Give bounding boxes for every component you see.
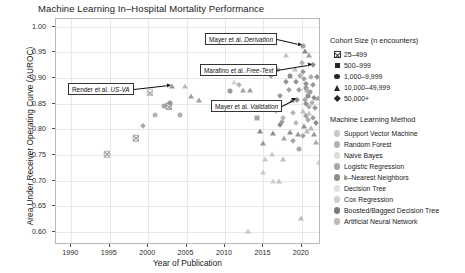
- data-point: [279, 119, 285, 125]
- legend: Cohort Size (n encounters)25–499500–9991…: [330, 36, 462, 227]
- annotation-label-mayer-derivation: Mayer et al. Derivation: [205, 33, 277, 45]
- square-icon: [335, 63, 340, 68]
- annotation-text-roman: Mayer et al.: [209, 36, 244, 43]
- legend-swatch: [330, 207, 344, 214]
- y-axis-tick-label: 0.65: [0, 201, 46, 210]
- data-point: [305, 93, 310, 98]
- gridline-horizontal: [56, 232, 319, 233]
- method-color-icon: [334, 207, 341, 214]
- y-axis-tick-label: 0.90: [0, 73, 46, 82]
- legend-item[interactable]: Logistic Regression: [330, 161, 462, 172]
- method-color-icon: [334, 141, 341, 148]
- data-point: [293, 120, 299, 126]
- y-axis-tick-mark: [52, 205, 55, 206]
- legend-item[interactable]: Support Vector Machine: [330, 128, 462, 139]
- x-axis-tick-mark: [186, 244, 187, 247]
- data-point: [310, 115, 316, 121]
- annotation-arrow-head: [297, 42, 302, 47]
- legend-item[interactable]: Artificial Neural Network: [330, 216, 462, 227]
- legend-item[interactable]: 50,000+: [330, 93, 462, 104]
- data-point: [308, 90, 313, 95]
- data-point: [280, 157, 286, 162]
- circle-icon: [334, 74, 340, 80]
- x-axis-tick-mark: [70, 244, 71, 247]
- data-point: [228, 88, 233, 93]
- legend-swatch: [330, 141, 344, 148]
- legend-swatch: [330, 85, 344, 91]
- data-point: [231, 79, 237, 84]
- legend-item[interactable]: Naive Bayes: [330, 150, 462, 161]
- annotation-text-italic: Free-Text: [246, 67, 273, 74]
- data-point: [308, 74, 314, 80]
- legend-title: Cohort Size (n encounters): [330, 36, 462, 45]
- data-point: [146, 89, 153, 96]
- legend-item[interactable]: k–Nearest Neighbors: [330, 172, 462, 183]
- data-point: [311, 131, 317, 136]
- legend-item[interactable]: 500–999: [330, 60, 462, 71]
- annotation-text-roman: Mayer et al.: [215, 103, 250, 110]
- data-point: [303, 81, 309, 87]
- legend-swatch: [330, 218, 344, 225]
- data-point: [196, 97, 202, 102]
- legend-item-label: 50,000+: [344, 95, 369, 102]
- data-point: [270, 131, 276, 136]
- data-point: [283, 79, 289, 85]
- method-color-icon: [334, 218, 341, 225]
- y-axis-tick-label: 0.70: [0, 175, 46, 184]
- plot-area: [55, 18, 320, 244]
- x-axis-tick-label: 1995: [101, 248, 117, 257]
- legend-item[interactable]: Cox Regression: [330, 194, 462, 205]
- y-axis-tick-mark: [52, 51, 55, 52]
- annotation-label-marafino-freetext: Marafino et al. Free-Text: [200, 64, 277, 76]
- legend-swatch: [330, 196, 344, 203]
- x-axis-tick-label: 2000: [139, 248, 155, 257]
- legend-item[interactable]: Random Forest: [330, 139, 462, 150]
- gridline-horizontal: [56, 129, 319, 130]
- annotation-text-roman: Render et al.: [72, 86, 110, 93]
- data-point: [311, 95, 317, 101]
- y-axis-tick-label: 0.75: [0, 150, 46, 159]
- x-axis-tick-label: 1990: [62, 248, 78, 257]
- annotation-label-render-usva: Render et al. US-VA: [68, 83, 134, 95]
- data-point: [166, 103, 173, 110]
- annotation-text-italic: Validation: [250, 103, 278, 110]
- y-axis-tick-label: 0.60: [0, 227, 46, 236]
- chart-figure: Machine Learning In–Hospital Mortality P…: [0, 0, 465, 273]
- legend-item[interactable]: 1,000–9,999: [330, 71, 462, 82]
- data-point: [312, 105, 318, 111]
- annotation-arrow-head: [167, 83, 171, 87]
- legend-item-label: 25–499: [344, 51, 367, 58]
- legend-item[interactable]: 25–499: [330, 49, 462, 60]
- legend-item-label: Cox Regression: [344, 196, 393, 203]
- annotation-label-mayer-validation: Mayer et al. Validation: [211, 100, 282, 112]
- y-axis-tick-mark: [52, 103, 55, 104]
- data-point: [296, 87, 302, 93]
- legend-item-label: Logistic Regression: [344, 163, 404, 170]
- legend-item[interactable]: Boosted/Bagged Decision Tree: [330, 205, 462, 216]
- triangle-icon: [334, 85, 340, 91]
- legend-item-label: Artificial Neural Network: [344, 218, 418, 225]
- data-point: [314, 74, 320, 80]
- legend-item-label: Support Vector Machine: [344, 130, 418, 137]
- data-point: [304, 88, 310, 94]
- data-point: [280, 115, 286, 121]
- legend-item-label: Random Forest: [344, 141, 392, 148]
- legend-item-label: Naive Bayes: [344, 152, 383, 159]
- legend-item[interactable]: Decision Tree: [330, 183, 462, 194]
- gridline-horizontal: [56, 181, 319, 182]
- legend-swatch: [330, 152, 344, 159]
- data-point: [306, 110, 312, 115]
- legend-item[interactable]: 10,000–49,999: [330, 82, 462, 93]
- annotation-text-roman: Marafino et al.: [204, 67, 246, 74]
- legend-swatch: [330, 185, 344, 192]
- gridline-horizontal: [56, 52, 319, 53]
- x-axis-tick-mark: [301, 244, 302, 247]
- annotation-text-italic: US-VA: [110, 86, 129, 93]
- x-axis-tick-mark: [224, 244, 225, 247]
- legend-swatch: [330, 74, 344, 80]
- data-point: [177, 112, 182, 117]
- x-axis-tick-label: 2015: [254, 248, 270, 257]
- gridline-horizontal: [56, 206, 319, 207]
- data-point: [316, 159, 320, 164]
- data-point: [313, 120, 319, 126]
